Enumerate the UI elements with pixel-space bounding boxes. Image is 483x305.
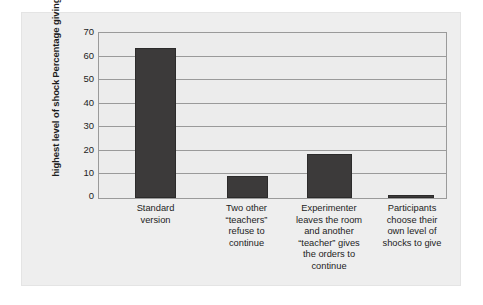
x-label-participants-choose: Participantschoose theirown level ofshoc…	[362, 203, 462, 249]
x-label-standard-version: Standardversion	[108, 203, 203, 226]
bar-experimenter-leaves-room[interactable]	[307, 154, 352, 198]
x-label-line: continue	[277, 261, 381, 273]
figure-panel: Percentage giving the highest level of s…	[22, 13, 460, 285]
y-tick-70: 70	[70, 27, 94, 37]
x-label-line: choose their	[362, 215, 462, 227]
bar-participants-choose-own-level[interactable]	[388, 195, 434, 198]
y-tick-10: 10	[70, 168, 94, 178]
y-tick-0: 0	[70, 191, 94, 201]
y-tick-20: 20	[70, 145, 94, 155]
x-label-line: shocks to give	[362, 238, 462, 250]
x-label-line: Participants	[362, 203, 462, 215]
y-tick-40: 40	[70, 98, 94, 108]
y-axis-title-line-2: highest level of shock	[50, 80, 61, 177]
x-label-line: version	[108, 215, 203, 227]
x-label-line: the orders to	[277, 249, 381, 261]
x-label-line: own level of	[362, 226, 462, 238]
y-tick-60: 60	[70, 51, 94, 61]
y-tick-50: 50	[70, 74, 94, 84]
y-axis-tick-labels: 70 60 50 40 30 20 10 0	[64, 32, 94, 197]
plot-area	[98, 32, 447, 199]
y-tick-30: 30	[70, 121, 94, 131]
x-label-line: Standard	[108, 203, 203, 215]
bar-two-other-teachers-refuse[interactable]	[227, 176, 268, 198]
x-axis-category-labels: Standardversion Two other“teachers”refus…	[98, 203, 445, 283]
y-axis-title-line-1: Percentage giving the	[50, 0, 61, 78]
bar-standard-version[interactable]	[135, 48, 176, 198]
